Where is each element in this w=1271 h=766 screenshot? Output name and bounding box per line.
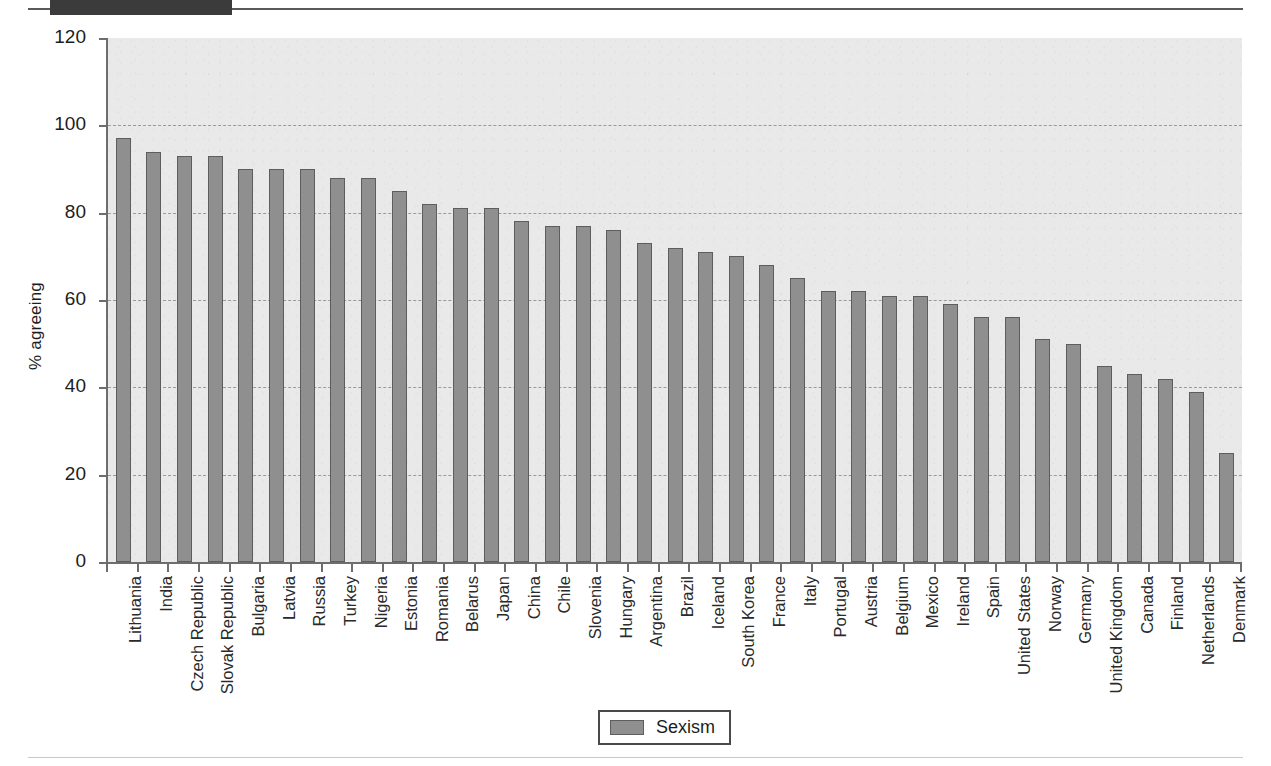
x-axis-label: United Kingdom	[1108, 576, 1125, 693]
y-tick-40	[99, 387, 108, 389]
bar	[300, 169, 315, 562]
bar	[177, 156, 192, 562]
y-axis-label-100: 100	[32, 113, 86, 135]
x-tick	[412, 564, 414, 572]
bar	[606, 230, 621, 562]
bar	[1158, 379, 1173, 562]
bar	[1097, 366, 1112, 563]
x-tick	[780, 564, 782, 572]
bar	[1189, 392, 1204, 562]
x-tick	[903, 564, 905, 572]
y-axis-label-20: 20	[32, 463, 86, 485]
y-tick-80	[99, 213, 108, 215]
x-axis-label: Canada	[1139, 576, 1156, 634]
x-tick	[995, 564, 997, 572]
x-tick	[106, 564, 108, 572]
x-axis-ticks	[106, 564, 1242, 574]
bar	[453, 208, 468, 562]
bar	[851, 291, 866, 562]
x-tick	[167, 564, 169, 572]
top-band	[0, 0, 1271, 16]
x-axis-label: Turkey	[342, 576, 359, 626]
y-tick-120	[99, 38, 108, 40]
bar	[116, 138, 131, 562]
x-axis-label: Russia	[311, 576, 328, 626]
x-axis-label: Bulgaria	[250, 576, 267, 637]
legend-swatch-sexism	[610, 720, 644, 735]
bar	[545, 226, 560, 562]
y-tick-20	[99, 475, 108, 477]
x-tick	[627, 564, 629, 572]
bar	[361, 178, 376, 562]
bar	[208, 156, 223, 562]
plot-area	[106, 38, 1242, 564]
bar	[514, 221, 529, 562]
bar	[943, 304, 958, 562]
x-tick	[688, 564, 690, 572]
y-axis-label-120: 120	[32, 26, 86, 48]
x-axis-label: Slovak Republic	[219, 576, 236, 694]
bar	[668, 248, 683, 562]
redacted-block	[50, 0, 232, 15]
y-tick-60	[99, 300, 108, 302]
bar	[1066, 344, 1081, 562]
y-axis-label-80: 80	[32, 201, 86, 223]
x-axis-label: Romania	[434, 576, 451, 642]
x-tick	[474, 564, 476, 572]
x-axis-label: France	[771, 576, 788, 627]
x-axis-label: Belgium	[894, 576, 911, 636]
x-tick	[566, 564, 568, 572]
x-axis-label: China	[526, 576, 543, 619]
x-tick	[1087, 564, 1089, 572]
bottom-horizontal-rule	[28, 757, 1243, 758]
bar	[637, 243, 652, 562]
bar	[759, 265, 774, 562]
x-axis-label: Iceland	[710, 576, 727, 629]
x-axis-label: Argentina	[648, 576, 665, 647]
x-axis-label: Brazil	[679, 576, 696, 617]
x-tick	[596, 564, 598, 572]
bar	[913, 296, 928, 562]
x-tick	[351, 564, 353, 572]
bar	[146, 152, 161, 562]
y-axis-label-0: 0	[32, 550, 86, 572]
x-axis-label: Estonia	[403, 576, 420, 631]
x-axis-label: Italy	[802, 576, 819, 606]
x-axis-labels: LithuaniaIndiaCzech RepublicSlovak Repub…	[106, 576, 1242, 696]
x-tick	[811, 564, 813, 572]
x-axis-label: United States	[1016, 576, 1033, 675]
x-axis-label: Slovenia	[587, 576, 604, 639]
x-tick	[382, 564, 384, 572]
bar	[1219, 453, 1234, 562]
x-axis-label: Hungary	[618, 576, 635, 638]
chart-legend: Sexism	[598, 710, 731, 745]
x-tick	[658, 564, 660, 572]
x-tick	[872, 564, 874, 572]
bar	[1035, 339, 1050, 562]
x-axis-label: Netherlands	[1200, 576, 1217, 665]
x-axis-label: Portugal	[832, 576, 849, 637]
x-axis-label: Japan	[495, 576, 512, 621]
x-axis-label: Finland	[1169, 576, 1186, 630]
x-tick	[1117, 564, 1119, 572]
y-axis-label-40: 40	[32, 375, 86, 397]
bar	[392, 191, 407, 562]
x-tick	[229, 564, 231, 572]
x-tick	[719, 564, 721, 572]
x-tick	[1056, 564, 1058, 572]
bar	[790, 278, 805, 562]
x-tick	[321, 564, 323, 572]
x-tick	[1025, 564, 1027, 572]
y-tick-100	[99, 125, 108, 127]
x-axis-label: Mexico	[924, 576, 941, 628]
x-axis-label: Latvia	[281, 576, 298, 620]
x-tick	[1148, 564, 1150, 572]
bar	[698, 252, 713, 562]
x-tick	[964, 564, 966, 572]
legend-label-sexism: Sexism	[656, 717, 715, 738]
bar	[484, 208, 499, 562]
x-axis-label: Lithuania	[127, 576, 144, 643]
x-axis-label: Spain	[985, 576, 1002, 618]
chart-figure: % agreeing 020406080100120 LithuaniaIndi…	[0, 16, 1271, 756]
x-axis-label: South Korea	[740, 576, 757, 668]
